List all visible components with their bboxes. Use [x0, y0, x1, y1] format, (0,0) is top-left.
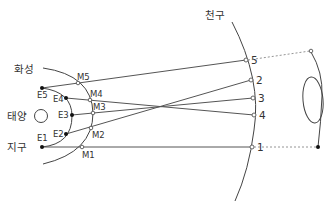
sky-point-3	[251, 96, 255, 100]
retrograde-loop-path	[311, 52, 322, 147]
loop-start-point	[309, 49, 313, 53]
mars-point-label-m1: M1	[82, 150, 95, 160]
sight-line-5	[42, 60, 246, 88]
earth-label: 지구	[7, 141, 27, 153]
sky-point-label-2: 2	[256, 74, 263, 86]
mars-label: 화성	[14, 63, 34, 75]
sky-point-label-5: 5	[251, 54, 258, 66]
celestial-sphere-label: 천구	[205, 9, 225, 21]
sky-point-5	[244, 58, 248, 62]
earth-point-e4	[64, 96, 68, 100]
earth-point-label-e2: E2	[53, 129, 64, 139]
earth-point-e2	[64, 132, 68, 136]
earth-point-e1	[40, 145, 44, 149]
celestial-sphere-arc	[232, 22, 256, 201]
sky-point-4	[252, 113, 256, 117]
mars-point-label-m4: M4	[90, 89, 103, 99]
sky-point-2	[249, 78, 253, 82]
earth-point-label-e4: E4	[53, 94, 64, 104]
sky-point-label-3: 3	[258, 92, 265, 104]
loop-end-point	[316, 145, 320, 149]
earth-point-label-e5: E5	[37, 90, 48, 100]
retrograde-motion-diagram: 천구 화성 태양 지구 E1 E2 E3 E4 E5 M1 M2 M3 M4 M…	[0, 0, 335, 215]
sky-point-label-4: 4	[259, 109, 266, 121]
sun-icon	[35, 110, 48, 123]
earth-point-e3	[70, 113, 74, 117]
mars-point-label-m3: M3	[93, 102, 106, 112]
sky-point-1	[250, 145, 254, 149]
mars-point-m1	[80, 145, 84, 149]
earth-point-label-e3: E3	[58, 110, 69, 120]
earth-point-label-e1: E1	[37, 133, 48, 143]
mars-point-label-m2: M2	[92, 130, 105, 140]
mars-point-label-m5: M5	[77, 72, 90, 82]
sun-label: 태양	[7, 110, 27, 122]
